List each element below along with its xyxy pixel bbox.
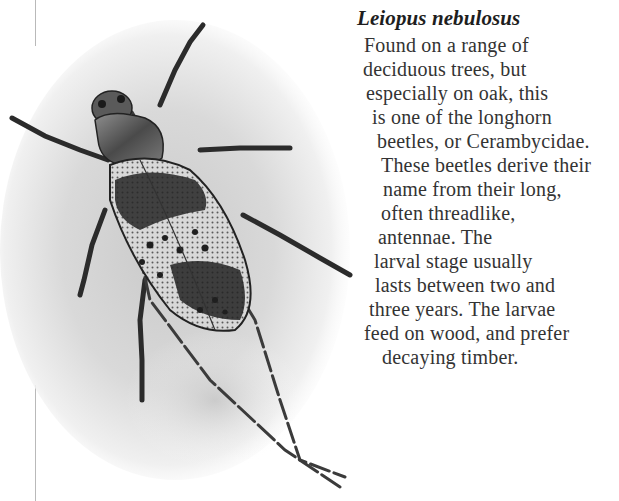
body-text-line: deciduous trees, but: [363, 57, 526, 81]
body-text-line: feed on wood, and prefer: [364, 321, 569, 345]
body-text-line: decaying timber.: [382, 345, 519, 369]
beetle-illustration: [0, 0, 360, 501]
body-text-line: These beetles derive their: [381, 153, 591, 177]
body-text-line: lasts between two and: [375, 273, 555, 297]
body-text-line: name from their long,: [383, 177, 562, 201]
body-text-line: antennae. The: [378, 225, 492, 249]
body-text-line: larval stage usually: [374, 249, 532, 273]
body-text-line: Found on a range of: [364, 33, 529, 57]
body-text-line: often threadlike,: [381, 201, 515, 225]
body-text-line: three years. The larvae: [369, 297, 555, 321]
species-title: Leiopus nebulosus: [357, 6, 520, 31]
body-text-line: especially on oak, this: [366, 81, 548, 105]
body-text-line: is one of the longhorn: [372, 105, 552, 129]
body-text-line: beetles, or Cerambycidae.: [377, 129, 590, 153]
